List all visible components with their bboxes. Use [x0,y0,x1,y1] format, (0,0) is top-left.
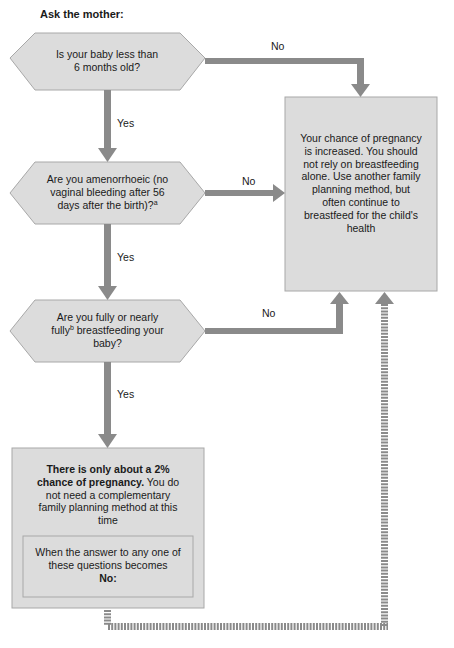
arrow-q3-yes [98,362,117,448]
question-2-label: Are you amenorrhoeic (no vaginal bleedin… [47,173,168,211]
footnote-a: a [154,199,158,206]
edge-label-no-3: No [262,307,275,319]
arrow-q3-no [205,292,349,334]
question-3-text: Are you fully or nearly fullyb breastfee… [45,311,170,350]
outcome-increased-text: Your chance of pregnancy is increased. Y… [300,132,422,234]
question-2-text: Are you amenorrhoeic (no vaginal bleedin… [45,173,170,212]
edge-label-yes-1: Yes [117,117,134,129]
arrow-q1-no [205,58,370,97]
edge-label-yes-2: Yes [117,251,134,263]
arrow-q2-yes [98,224,117,300]
outcome-low-text: There is only about a 2% chance of pregn… [36,463,180,527]
page-title: Ask the mother: [40,8,124,20]
question-3-label-post: breastfeeding your baby? [74,324,164,349]
edge-label-no-1: No [271,40,284,52]
note-body: When the answer to any one of these ques… [35,546,180,571]
note-bold: No: [99,572,117,584]
note-text: When the answer to any one of these ques… [30,546,186,584]
question-1-text: Is your baby less than 6 months old? [52,48,162,74]
edge-label-no-2: No [242,175,255,187]
edge-label-yes-3: Yes [117,388,134,400]
arrow-q1-yes [98,90,117,162]
